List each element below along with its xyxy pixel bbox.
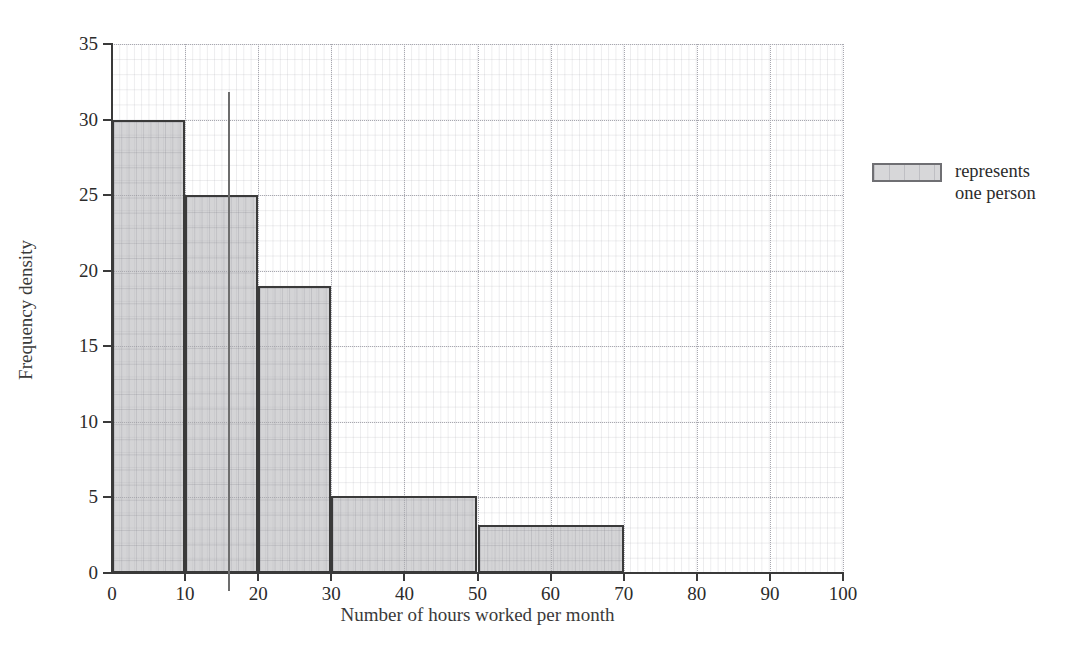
- y-axis-tick: [103, 43, 112, 45]
- x-axis-tick-label: 0: [82, 583, 142, 604]
- y-axis-tick: [103, 496, 112, 498]
- gridline-vertical: [404, 44, 405, 573]
- gridline-vertical: [551, 44, 552, 573]
- histogram-bar: [478, 525, 624, 573]
- x-axis-tick-label: 10: [155, 583, 215, 604]
- x-axis-tick: [550, 573, 552, 581]
- legend-label: represents one person: [955, 160, 1036, 204]
- x-axis-title: Number of hours worked per month: [112, 604, 843, 626]
- x-axis-tick-label: 70: [594, 583, 654, 604]
- x-axis-tick: [257, 573, 259, 581]
- y-axis-tick: [103, 119, 112, 121]
- x-axis-tick: [623, 573, 625, 581]
- y-axis-tick: [103, 194, 112, 196]
- x-axis-tick-label: 80: [667, 583, 727, 604]
- vertical-marker-annotation: [228, 92, 230, 591]
- y-axis-tick-label: 20: [56, 261, 98, 280]
- x-axis-tick: [403, 573, 405, 581]
- gridline-vertical: [697, 44, 698, 573]
- y-axis-tick: [103, 421, 112, 423]
- x-axis-tick: [184, 573, 186, 581]
- gridline-vertical: [624, 44, 625, 573]
- grey-square-swatch: [872, 163, 942, 182]
- x-axis-tick: [842, 573, 844, 581]
- x-axis-tick-label: 90: [740, 583, 800, 604]
- y-axis-tick-label: 0: [56, 563, 98, 582]
- y-axis-tick: [103, 572, 112, 574]
- histogram-figure: 051015202530350102030405060708090100 Num…: [0, 0, 1090, 646]
- gridline-horizontal: [112, 120, 843, 121]
- y-axis-tick-label: 5: [56, 487, 98, 506]
- x-axis-tick: [696, 573, 698, 581]
- histogram-bar: [331, 496, 477, 573]
- gridline-vertical: [478, 44, 479, 573]
- x-axis-tick: [330, 573, 332, 581]
- y-axis-tick-label: 10: [56, 412, 98, 431]
- x-axis-tick-label: 50: [448, 583, 508, 604]
- y-axis-tick-label: 25: [56, 185, 98, 204]
- gridline-vertical: [843, 44, 844, 573]
- x-axis-tick-label: 100: [813, 583, 873, 604]
- gridline-horizontal: [112, 44, 843, 45]
- gridline-vertical: [331, 44, 332, 573]
- y-axis-tick: [103, 270, 112, 272]
- x-axis-tick-label: 20: [228, 583, 288, 604]
- histogram-bar: [185, 195, 258, 573]
- legend: represents one person: [872, 160, 1036, 204]
- histogram-bar: [112, 120, 185, 573]
- x-axis-tick: [769, 573, 771, 581]
- y-axis-title: Frequency density: [16, 200, 36, 420]
- y-axis-tick-label: 15: [56, 336, 98, 355]
- x-axis-tick-label: 40: [374, 583, 434, 604]
- x-axis-tick: [477, 573, 479, 581]
- gridline-vertical: [770, 44, 771, 573]
- y-axis-tick-label: 35: [56, 34, 98, 53]
- x-axis-tick-label: 30: [301, 583, 361, 604]
- y-axis-tick-label: 30: [56, 110, 98, 129]
- y-axis-tick: [103, 345, 112, 347]
- histogram-bar: [258, 286, 331, 573]
- x-axis-tick-label: 60: [521, 583, 581, 604]
